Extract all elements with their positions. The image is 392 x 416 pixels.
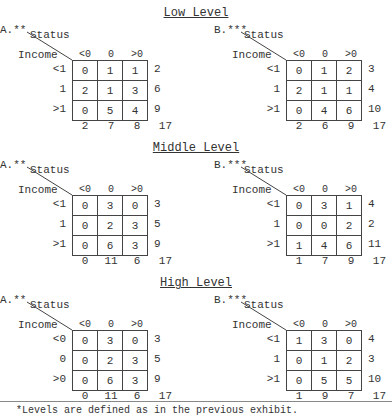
table-row: 030 xyxy=(73,196,148,216)
column-header: <0 xyxy=(73,184,97,195)
row-total: 10 xyxy=(368,373,388,385)
column-total: 7 xyxy=(99,120,123,132)
column-header: 0 xyxy=(99,319,123,330)
column-total: 9 xyxy=(339,255,363,267)
row-header: >1 xyxy=(26,103,66,115)
table-cell: 3 xyxy=(98,331,123,351)
table-cell: 1 xyxy=(337,196,362,216)
row-header: >0 xyxy=(26,373,66,385)
table-cell: 4 xyxy=(123,101,148,121)
table-cell: 0 xyxy=(287,371,312,391)
table-cell: 5 xyxy=(337,371,362,391)
column-total: 1 xyxy=(287,255,311,267)
table-row: 046 xyxy=(287,101,362,121)
column-header: 0 xyxy=(99,184,123,195)
crosstab-grid: 031002146 xyxy=(286,195,362,256)
column-header: >0 xyxy=(125,49,149,60)
table-cell: 1 xyxy=(123,61,148,81)
row-header: >1 xyxy=(26,238,66,250)
column-header: <0 xyxy=(287,319,311,330)
crosstab-panel: B.***StatusIncome<00>0<11>11300120554310… xyxy=(200,294,390,404)
column-header: 0 xyxy=(313,319,337,330)
column-total: 7 xyxy=(313,255,337,267)
row-total: 3 xyxy=(154,198,174,210)
row-total: 9 xyxy=(154,373,174,385)
crosstab-panel: B.***StatusIncome<00>0<11>10310021464211… xyxy=(200,159,390,269)
column-header: >0 xyxy=(339,319,363,330)
row-total: 10 xyxy=(368,103,388,115)
crosstab-panel: A.**StatusIncome<00>0<00>003002306335901… xyxy=(0,294,190,404)
grand-total: 17 xyxy=(362,255,386,267)
table-cell: 2 xyxy=(98,216,123,236)
column-total: 9 xyxy=(339,120,363,132)
table-cell: 2 xyxy=(98,351,123,371)
row-total: 9 xyxy=(154,238,174,250)
row-header: 1 xyxy=(240,353,280,365)
footnote: *Levels are defined as in the previous e… xyxy=(16,405,298,416)
section-title: High Level xyxy=(0,276,392,290)
section-title: Low Level xyxy=(0,6,392,20)
row-header: >1 xyxy=(240,238,280,250)
row-total: 2 xyxy=(154,63,174,75)
column-header: <0 xyxy=(287,49,311,60)
table-row: 130 xyxy=(287,331,362,351)
row-total: 3 xyxy=(368,63,388,75)
table-row: 063 xyxy=(73,371,148,391)
table-cell: 4 xyxy=(312,236,337,256)
table-cell: 3 xyxy=(123,81,148,101)
column-header: >0 xyxy=(339,49,363,60)
table-cell: 1 xyxy=(337,81,362,101)
row-header: 1 xyxy=(240,83,280,95)
table-row: 031 xyxy=(287,196,362,216)
table-cell: 0 xyxy=(73,216,98,236)
table-row: 030 xyxy=(73,331,148,351)
grand-total: 17 xyxy=(362,120,386,132)
table-cell: 3 xyxy=(123,216,148,236)
table-row: 054 xyxy=(73,101,148,121)
column-header: 0 xyxy=(99,49,123,60)
column-total: 2 xyxy=(287,120,311,132)
table-cell: 1 xyxy=(312,81,337,101)
table-row: 011 xyxy=(73,61,148,81)
table-cell: 0 xyxy=(312,216,337,236)
column-header: <0 xyxy=(287,184,311,195)
row-header: <1 xyxy=(26,198,66,210)
table-row: 023 xyxy=(73,216,148,236)
row-header: <0 xyxy=(26,333,66,345)
table-row: 213 xyxy=(73,81,148,101)
table-cell: 0 xyxy=(73,331,98,351)
row-total: 2 xyxy=(368,218,388,230)
column-header: 0 xyxy=(313,184,337,195)
table-cell: 0 xyxy=(287,216,312,236)
column-total: 2 xyxy=(73,120,97,132)
row-header: 1 xyxy=(26,83,66,95)
table-cell: 6 xyxy=(98,371,123,391)
table-cell: 0 xyxy=(73,371,98,391)
column-header: >0 xyxy=(125,319,149,330)
table-cell: 2 xyxy=(73,81,98,101)
column-header: 0 xyxy=(313,49,337,60)
row-total: 4 xyxy=(368,198,388,210)
table-cell: 3 xyxy=(123,371,148,391)
grand-total: 17 xyxy=(148,255,172,267)
section-title: Middle Level xyxy=(0,141,392,155)
table-row: 055 xyxy=(287,371,362,391)
table-cell: 3 xyxy=(98,196,123,216)
table-cell: 3 xyxy=(123,236,148,256)
row-header: <1 xyxy=(240,63,280,75)
crosstab-grid: 012211046 xyxy=(286,60,362,121)
table-cell: 0 xyxy=(123,196,148,216)
column-header: >0 xyxy=(339,184,363,195)
column-total: 6 xyxy=(313,120,337,132)
column-total: 8 xyxy=(125,120,149,132)
table-cell: 1 xyxy=(312,351,337,371)
table-cell: 5 xyxy=(98,101,123,121)
table-cell: 0 xyxy=(73,196,98,216)
table-cell: 2 xyxy=(337,61,362,81)
table-cell: 2 xyxy=(337,351,362,371)
footnote-divider xyxy=(0,401,392,402)
table-cell: 0 xyxy=(287,351,312,371)
row-total: 4 xyxy=(368,333,388,345)
row-total: 5 xyxy=(154,218,174,230)
table-cell: 4 xyxy=(312,101,337,121)
